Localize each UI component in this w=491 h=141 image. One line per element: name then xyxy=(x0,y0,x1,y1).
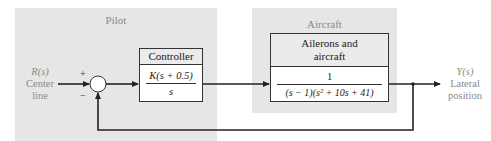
plant-block: Ailerons and aircraft 1 (s − 1)(s² + 10s… xyxy=(270,33,389,102)
plant-transfer-function: 1 (s − 1)(s² + 10s + 41) xyxy=(271,67,388,99)
controller-title: Controller xyxy=(140,49,202,65)
plus-sign: + xyxy=(80,68,86,79)
plant-title-line1: Ailerons and xyxy=(301,37,358,49)
controller-block: Controller K(s + 0.5) s xyxy=(139,48,203,102)
output-symbol: Y(s) xyxy=(457,66,474,77)
input-label: R(s) Center line xyxy=(22,66,58,102)
plant-denominator: (s − 1)(s² + 10s + 41) xyxy=(271,86,388,99)
output-label: Y(s) Lateral position xyxy=(441,66,489,102)
output-line1: Lateral xyxy=(450,78,480,89)
plant-title: Ailerons and aircraft xyxy=(271,34,388,67)
controller-numerator: K(s + 0.5) xyxy=(140,69,202,82)
summing-junction xyxy=(90,76,106,92)
fraction-bar xyxy=(277,84,382,85)
output-line2: position xyxy=(448,90,482,101)
signal-flow-lines xyxy=(0,0,491,141)
controller-transfer-function: K(s + 0.5) s xyxy=(140,65,202,98)
fraction-bar xyxy=(146,83,196,84)
plant-title-line2: aircraft xyxy=(314,50,346,62)
input-line1: Center xyxy=(26,78,54,89)
minus-sign: − xyxy=(80,90,86,101)
plant-numerator: 1 xyxy=(271,70,388,83)
input-line2: line xyxy=(32,90,48,101)
controller-denominator: s xyxy=(140,85,202,98)
input-symbol: R(s) xyxy=(31,66,49,77)
